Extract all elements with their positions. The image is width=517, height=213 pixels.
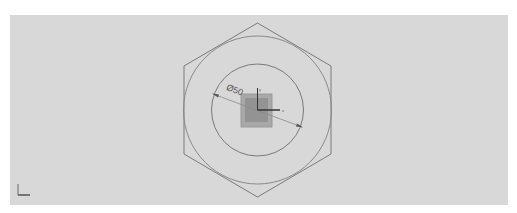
sketch-canvas[interactable]: Ø50 y x [0,0,517,213]
view-triad-icon [18,184,30,195]
origin-y-label: y [259,87,261,92]
dimension-label[interactable]: Ø50 [225,82,244,97]
origin-x-label: x [282,108,284,113]
dimension-arrow-end-icon [296,124,303,128]
